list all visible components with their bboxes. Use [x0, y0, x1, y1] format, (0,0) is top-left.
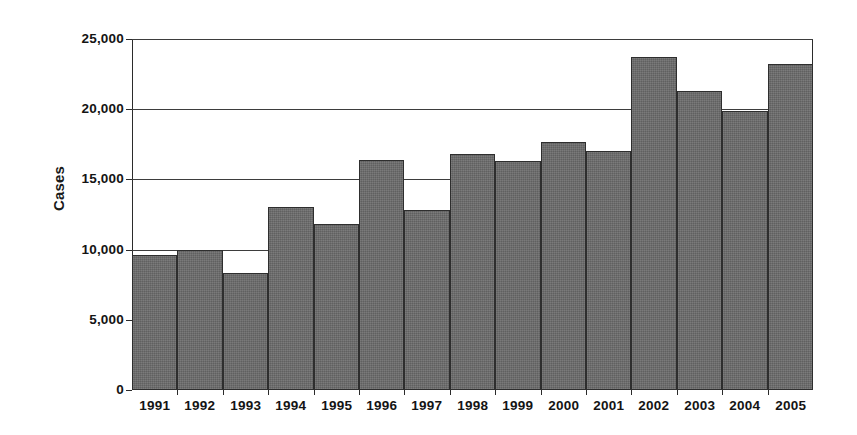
y-tick-label: 0: [52, 382, 124, 397]
x-tick-mark: [677, 390, 678, 395]
x-tick-label-1993: 1993: [223, 398, 268, 413]
y-tick-label: 20,000: [52, 101, 124, 116]
bar-1994: [268, 207, 314, 390]
x-tick-mark: [314, 390, 315, 395]
y-axis-tick-label-group: 25,00020,00015,00010,0005,0000: [48, 0, 124, 435]
bar-2000: [541, 142, 586, 391]
x-tick-mark: [404, 390, 405, 395]
x-tick-label-1996: 1996: [359, 398, 404, 413]
x-tick-label-2001: 2001: [586, 398, 631, 413]
bar-1999: [495, 161, 541, 390]
x-tick-mark: [223, 390, 224, 395]
x-tick-label-1997: 1997: [404, 398, 449, 413]
x-tick-label-1999: 1999: [495, 398, 540, 413]
x-axis-tick-label-group: 1991199219931994199519961997199819992000…: [132, 398, 813, 422]
bar-1991: [132, 255, 177, 390]
bar-1995: [314, 224, 359, 390]
x-tick-label-2005: 2005: [768, 398, 813, 413]
y-tick-mark: [126, 390, 132, 391]
bar-2003: [677, 91, 722, 390]
x-tick-label-1998: 1998: [450, 398, 495, 413]
bar-chart-figure: Cases 25,00020,00015,00010,0005,0000 199…: [0, 0, 857, 435]
x-tick-label-2004: 2004: [722, 398, 767, 413]
x-tick-mark: [450, 390, 451, 395]
bar-2001: [586, 151, 631, 390]
bar-2004: [722, 111, 768, 390]
bar-1998: [450, 154, 495, 390]
x-tick-mark: [268, 390, 269, 395]
x-tick-mark: [359, 390, 360, 395]
x-tick-label-1991: 1991: [132, 398, 177, 413]
x-tick-label-1994: 1994: [268, 398, 313, 413]
bar-1997: [404, 210, 450, 390]
x-tick-mark: [541, 390, 542, 395]
x-tick-mark: [177, 390, 178, 395]
plot-area: [132, 39, 813, 390]
x-tick-mark: [722, 390, 723, 395]
x-tick-mark: [768, 390, 769, 395]
y-tick-label: 15,000: [52, 171, 124, 186]
y-tick-label: 25,000: [52, 31, 124, 46]
x-tick-label-1992: 1992: [177, 398, 222, 413]
x-tick-label-2002: 2002: [631, 398, 676, 413]
x-tick-mark: [495, 390, 496, 395]
bar-2005: [768, 64, 813, 390]
x-tick-label-2003: 2003: [677, 398, 722, 413]
bar-group: [132, 39, 813, 390]
bar-1992: [177, 250, 223, 390]
bar-2002: [631, 57, 677, 390]
x-tick-mark: [631, 390, 632, 395]
bar-1993: [223, 273, 268, 390]
x-tick-mark: [586, 390, 587, 395]
bar-1996: [359, 160, 404, 390]
y-tick-label: 10,000: [52, 242, 124, 257]
y-tick-label: 5,000: [52, 312, 124, 327]
x-tick-label-2000: 2000: [541, 398, 586, 413]
x-tick-label-1995: 1995: [314, 398, 359, 413]
